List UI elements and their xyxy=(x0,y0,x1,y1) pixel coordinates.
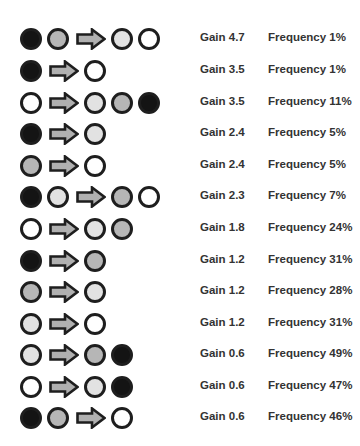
state-sequence xyxy=(20,123,111,145)
gain-label: Gain 1.8 xyxy=(200,221,245,233)
black-circle-icon xyxy=(20,186,42,208)
mid-circle-icon xyxy=(47,407,69,429)
frequency-label: Frequency 24% xyxy=(268,221,352,233)
transition-row: Gain 4.7Frequency 1% xyxy=(0,25,360,53)
white-circle-icon xyxy=(84,313,106,335)
black-circle-icon xyxy=(20,28,42,50)
frequency-label: Frequency 11% xyxy=(268,95,352,107)
black-circle-icon xyxy=(111,344,133,366)
light-circle-icon xyxy=(84,92,106,114)
right-arrow-icon xyxy=(49,92,79,114)
light-circle-icon xyxy=(84,123,106,145)
gain-label: Gain 1.2 xyxy=(200,253,245,265)
transition-row: Gain 0.6Frequency 46% xyxy=(0,404,360,432)
state-sequence xyxy=(20,60,111,82)
light-circle-icon xyxy=(84,218,106,240)
gain-label: Gain 2.4 xyxy=(200,158,245,170)
transition-row: Gain 2.4Frequency 5% xyxy=(0,120,360,148)
mid-circle-icon xyxy=(20,155,42,177)
right-arrow-icon xyxy=(49,250,79,272)
gain-label: Gain 1.2 xyxy=(200,284,245,296)
white-circle-icon xyxy=(84,60,106,82)
transition-row: Gain 0.6Frequency 47% xyxy=(0,373,360,401)
light-circle-icon xyxy=(84,376,106,398)
mid-circle-icon xyxy=(20,281,42,303)
light-circle-icon xyxy=(111,28,133,50)
mid-circle-icon xyxy=(84,344,106,366)
state-sequence xyxy=(20,218,138,240)
gain-label: Gain 1.2 xyxy=(200,316,245,328)
state-sequence xyxy=(20,92,165,114)
black-circle-icon xyxy=(20,250,42,272)
white-circle-icon xyxy=(138,28,160,50)
white-circle-icon xyxy=(138,186,160,208)
transition-row: Gain 2.3Frequency 7% xyxy=(0,183,360,211)
transition-row: Gain 1.8Frequency 24% xyxy=(0,215,360,243)
gain-label: Gain 2.4 xyxy=(200,126,245,138)
black-circle-icon xyxy=(20,407,42,429)
black-circle-icon xyxy=(111,376,133,398)
right-arrow-icon xyxy=(49,313,79,335)
white-circle-icon xyxy=(20,218,42,240)
frequency-label: Frequency 28% xyxy=(268,284,352,296)
transition-row: Gain 3.5Frequency 11% xyxy=(0,89,360,117)
frequency-label: Frequency 47% xyxy=(268,379,352,391)
right-arrow-icon xyxy=(76,407,106,429)
frequency-label: Frequency 49% xyxy=(268,347,352,359)
transition-row: Gain 1.2Frequency 31% xyxy=(0,247,360,275)
state-sequence xyxy=(20,344,138,366)
gain-label: Gain 2.3 xyxy=(200,189,245,201)
transition-row: Gain 1.2Frequency 28% xyxy=(0,278,360,306)
state-sequence xyxy=(20,28,165,50)
frequency-label: Frequency 5% xyxy=(268,126,346,138)
frequency-label: Frequency 46% xyxy=(268,410,352,422)
mid-circle-icon xyxy=(111,218,133,240)
right-arrow-icon xyxy=(49,155,79,177)
transition-row: Gain 3.5Frequency 1% xyxy=(0,57,360,85)
gain-label: Gain 3.5 xyxy=(200,63,245,75)
gain-label: Gain 0.6 xyxy=(200,347,245,359)
right-arrow-icon xyxy=(76,28,106,50)
state-sequence xyxy=(20,407,138,429)
mid-circle-icon xyxy=(84,250,106,272)
white-circle-icon xyxy=(20,92,42,114)
state-sequence xyxy=(20,281,111,303)
light-circle-icon xyxy=(20,344,42,366)
black-circle-icon xyxy=(20,60,42,82)
right-arrow-icon xyxy=(49,218,79,240)
frequency-label: Frequency 7% xyxy=(268,189,346,201)
state-sequence xyxy=(20,155,111,177)
black-circle-icon xyxy=(20,123,42,145)
frequency-label: Frequency 1% xyxy=(268,31,346,43)
gain-label: Gain 3.5 xyxy=(200,95,245,107)
mid-circle-icon xyxy=(111,92,133,114)
right-arrow-icon xyxy=(76,186,106,208)
gain-label: Gain 0.6 xyxy=(200,410,245,422)
right-arrow-icon xyxy=(49,60,79,82)
mid-circle-icon xyxy=(111,186,133,208)
white-circle-icon xyxy=(111,407,133,429)
light-circle-icon xyxy=(84,281,106,303)
right-arrow-icon xyxy=(49,281,79,303)
black-circle-icon xyxy=(138,92,160,114)
frequency-label: Frequency 1% xyxy=(268,63,346,75)
frequency-label: Frequency 31% xyxy=(268,253,352,265)
frequency-label: Frequency 31% xyxy=(268,316,352,328)
state-sequence xyxy=(20,313,111,335)
transition-row: Gain 0.6Frequency 49% xyxy=(0,341,360,369)
state-sequence xyxy=(20,186,165,208)
gain-label: Gain 4.7 xyxy=(200,31,245,43)
white-circle-icon xyxy=(20,376,42,398)
gain-label: Gain 0.6 xyxy=(200,379,245,391)
right-arrow-icon xyxy=(49,344,79,366)
transition-row: Gain 2.4Frequency 5% xyxy=(0,152,360,180)
transition-row: Gain 1.2Frequency 31% xyxy=(0,310,360,338)
state-sequence xyxy=(20,376,138,398)
right-arrow-icon xyxy=(49,376,79,398)
mid-circle-icon xyxy=(47,28,69,50)
state-sequence xyxy=(20,250,111,272)
light-circle-icon xyxy=(20,313,42,335)
frequency-label: Frequency 5% xyxy=(268,158,346,170)
white-circle-icon xyxy=(84,155,106,177)
light-circle-icon xyxy=(47,186,69,208)
